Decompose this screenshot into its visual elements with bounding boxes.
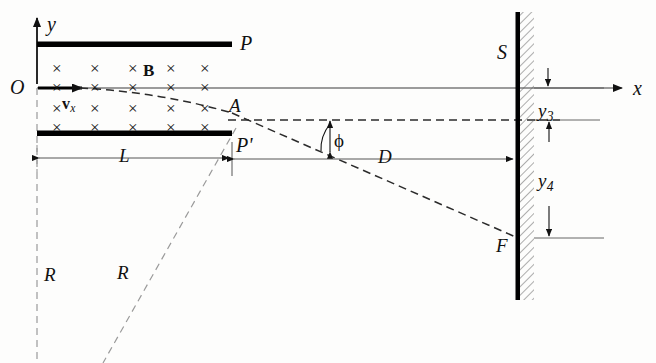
velocity-label: vx xyxy=(62,96,75,115)
axis-label-x: x xyxy=(633,78,642,98)
trajectory-line-to-screen xyxy=(232,113,518,238)
field-cross-icon: × xyxy=(90,100,100,117)
y3-symbol: y xyxy=(538,100,546,121)
y4-subscript: 4 xyxy=(547,179,554,194)
field-cross-icon: × xyxy=(200,79,210,96)
field-cross-icon: × xyxy=(166,60,176,77)
field-cross-icon: × xyxy=(90,60,100,77)
velocity-symbol: v xyxy=(62,95,70,112)
field-cross-icon: × xyxy=(90,119,100,136)
figure-canvas: × × × × × × × × × × × × × × × × × × × × … xyxy=(0,0,656,363)
angle-phi-arc xyxy=(321,124,330,151)
field-cross-icon: × xyxy=(128,119,138,136)
radius-label-R-slanted: R xyxy=(117,263,129,282)
point-label-A: A xyxy=(229,96,241,115)
screen-label-S: S xyxy=(497,42,507,62)
field-cross-icon: × xyxy=(200,60,210,77)
field-cross-icon: × xyxy=(166,100,176,117)
field-label-B: B xyxy=(143,62,154,79)
y3-subscript: 3 xyxy=(547,109,554,124)
dimension-L xyxy=(37,142,232,176)
plate-label-P: P xyxy=(240,33,252,53)
angle-label-phi: ϕ xyxy=(334,131,344,150)
field-cross-icon: × xyxy=(200,100,210,117)
plate-top xyxy=(37,42,232,48)
field-cross-icon: × xyxy=(166,119,176,136)
field-cross-icon: × xyxy=(52,119,62,136)
field-cross-icon: × xyxy=(128,79,138,96)
point-label-F: F xyxy=(496,236,508,255)
field-cross-icon: × xyxy=(128,100,138,117)
field-cross-icon: × xyxy=(90,79,100,96)
diagram-vector-layer xyxy=(0,0,656,363)
field-cross-icon: × xyxy=(52,79,62,96)
dimension-label-L: L xyxy=(119,146,130,165)
axis-label-y: y xyxy=(47,14,56,34)
origin-label-O: O xyxy=(10,77,24,97)
dimension-label-D: D xyxy=(378,147,392,166)
dimension-label-y3: y3 xyxy=(538,101,554,124)
radius-label-R-vertical: R xyxy=(44,265,56,284)
field-cross-icon: × xyxy=(200,119,210,136)
dimension-label-y4: y4 xyxy=(538,171,554,194)
screen-bar xyxy=(516,12,521,300)
field-cross-icon: × xyxy=(166,79,176,96)
screen-hatching xyxy=(520,12,534,300)
y4-symbol: y xyxy=(538,170,546,191)
field-cross-icon: × xyxy=(128,60,138,77)
field-cross-icon: × xyxy=(52,100,62,117)
plate-label-P-prime: P' xyxy=(236,135,253,155)
velocity-subscript: x xyxy=(70,102,75,114)
field-cross-icon: × xyxy=(52,60,62,77)
